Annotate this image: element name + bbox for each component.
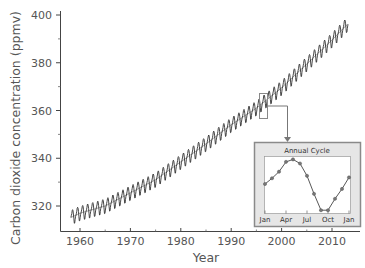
x-tick-label: 1980: [167, 235, 195, 248]
x-tick-label: 2000: [268, 235, 296, 248]
y-axis-title: Carbon dioxide concentration (ppmv): [8, 11, 23, 245]
annual-cycle-point: [326, 209, 329, 212]
annual-cycle-point: [347, 176, 350, 179]
inset-title: Annual Cycle: [284, 147, 330, 155]
inset-plot-area: [265, 157, 351, 214]
x-tick-label: 1990: [217, 235, 245, 248]
co2-chart: Carbon dioxide concentration (ppmv) 3203…: [0, 0, 365, 268]
y-tick-label: 380: [31, 57, 52, 70]
annual-cycle-point: [291, 158, 294, 161]
annual-cycle-point: [284, 160, 287, 163]
inset-tick-label: Oct: [322, 216, 334, 224]
y-tick-label: 340: [31, 152, 52, 165]
annual-cycle-point: [333, 197, 336, 200]
y-ticks: 320340360380400: [31, 9, 61, 213]
inset-tick-label: Jan: [259, 216, 271, 224]
annual-cycle-point: [298, 162, 301, 165]
y-tick-label: 320: [31, 200, 52, 213]
y-tick-label: 400: [31, 9, 52, 22]
annual-cycle-point: [270, 177, 273, 180]
annual-cycle-point: [312, 192, 315, 195]
annual-cycle-point: [340, 187, 343, 190]
annual-cycle-point: [263, 182, 266, 185]
inset-tick-label: Jul: [302, 216, 312, 224]
x-axis-title: Year: [192, 250, 220, 265]
x-tick-label: 1960: [66, 235, 94, 248]
arrow-head-icon: [284, 137, 291, 142]
annual-cycle-point: [277, 170, 280, 173]
annual-cycle-point: [305, 174, 308, 177]
callout-arrow-line: [268, 106, 288, 138]
x-tick-label: 1970: [116, 235, 144, 248]
inset-tick-label: Apr: [280, 216, 292, 224]
annual-cycle-inset: Annual Cycle JanAprJulOctJan: [255, 143, 361, 227]
annual-cycle-point: [319, 209, 322, 212]
y-tick-label: 360: [31, 105, 52, 118]
x-tick-label: 2010: [318, 235, 346, 248]
inset-tick-label: Jan: [343, 216, 355, 224]
